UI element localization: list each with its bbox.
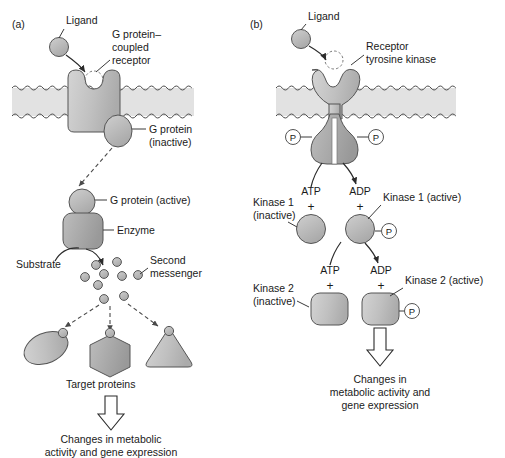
- phosphate-left-label: P: [290, 132, 296, 143]
- ligand-binding-pocket-b: [325, 51, 343, 69]
- kinase2-inactive-shape: [311, 293, 348, 325]
- outcome-block-arrow-a: [98, 396, 124, 430]
- outcome-label-b-line3: gene expression: [341, 399, 418, 411]
- rtk-dimer-split: [332, 118, 337, 164]
- kinase2-active-label: Kinase 2 (active): [405, 274, 483, 286]
- ligand-ball-b: [292, 30, 311, 49]
- g-protein-active-shape: [69, 189, 95, 215]
- ligand-leader-b: [301, 24, 306, 30]
- receptor-phosphate-right: P: [357, 130, 384, 145]
- panel-a: (a) Ligand G protein– coupled receptor G…: [12, 14, 202, 458]
- panel-b-letter: (b): [250, 18, 263, 30]
- kinase1-active-shape: [346, 215, 375, 244]
- outcome-label-b-line1: Changes in: [353, 373, 406, 385]
- gpcr-label-line3: receptor: [112, 54, 151, 66]
- enzyme-shape: [63, 213, 103, 249]
- second-messenger-dot: [120, 292, 129, 301]
- second-messenger-dot: [81, 273, 90, 282]
- enzyme-label: Enzyme: [117, 224, 155, 236]
- ligand-label-a: Ligand: [66, 14, 98, 26]
- g-protein-activation-arrow: [79, 148, 112, 186]
- second-messenger-dot: [134, 271, 143, 280]
- ligand-binding-arrow-b: [309, 46, 326, 60]
- target-arrow-left: [65, 305, 99, 327]
- second-messenger-label-line1: Second: [150, 254, 186, 266]
- target-protein-hexagon-body: [90, 335, 130, 377]
- phosphate-right-label: P: [373, 132, 379, 143]
- receptor-phosphate-left: P: [286, 130, 313, 145]
- kinase1-inactive-leader: [288, 222, 297, 227]
- second-messenger-label-line2: messenger: [150, 267, 202, 279]
- kinase2-active-shape: [362, 293, 399, 325]
- second-messenger-dot: [100, 295, 109, 304]
- plus-1-left: +: [307, 200, 314, 214]
- outcome-label-a-line2: activity and gene expression: [45, 446, 178, 458]
- g-protein-inactive-label-line1: G protein: [149, 123, 192, 135]
- adp-curve-2: [365, 243, 378, 263]
- target-protein-triangle: [146, 326, 192, 367]
- kinase1-inactive-label-line1: Kinase 1: [253, 196, 294, 208]
- plasma-membrane-b: [276, 86, 456, 118]
- target-protein-ellipse: [19, 325, 73, 371]
- kinase2-inactive-label-line1: Kinase 2: [253, 282, 294, 294]
- ligand-binding-arrow-a: [66, 55, 85, 72]
- plus-2-right: +: [377, 279, 384, 293]
- atp-curve-2: [330, 242, 341, 265]
- target-protein-triangle-ball: [164, 326, 173, 335]
- g-protein-active-label: G protein (active): [110, 194, 191, 206]
- panel-b: (b) Ligand Receptor tyrosine kinase P: [250, 10, 483, 411]
- kinase1-inactive-label-line2: (inactive): [253, 209, 296, 221]
- kinase2-inactive-label-line2: (inactive): [253, 295, 296, 307]
- plus-1-right: +: [356, 200, 363, 214]
- second-messenger-dot: [113, 258, 122, 267]
- adp-label-1: ADP: [349, 185, 371, 197]
- atp-curve-1: [311, 163, 322, 187]
- gpcr-label-line2: coupled: [112, 41, 149, 53]
- membrane-band-b: [276, 88, 456, 116]
- adp-label-2: ADP: [370, 264, 392, 276]
- ligand-leader-a: [59, 29, 64, 38]
- gpcr-label-line1: G protein–: [112, 28, 161, 40]
- rtk-label-line1: Receptor: [366, 40, 409, 52]
- signaling-pathway-figure: (a) Ligand G protein– coupled receptor G…: [0, 0, 505, 458]
- rtk-label-line2: tyrosine kinase: [366, 53, 436, 65]
- kinase1-inactive-shape: [297, 215, 326, 244]
- atp-label-2: ATP: [320, 264, 340, 276]
- target-protein-hexagon: [90, 328, 130, 377]
- target-proteins-label: Target proteins: [66, 378, 135, 390]
- panel-a-letter: (a): [12, 18, 25, 30]
- target-protein-triangle-body: [146, 332, 192, 367]
- outcome-label-b-line2: metabolic activity and: [330, 386, 431, 398]
- kinase1-active-label: Kinase 1 (active): [383, 191, 461, 203]
- target-arrow-right: [128, 304, 158, 326]
- target-protein-ellipse-ball: [58, 328, 67, 337]
- kinase1-active-leader: [368, 205, 381, 219]
- second-messenger-dots: [81, 258, 143, 304]
- plus-2-left: +: [326, 279, 333, 293]
- kinase2-active-phosphate-label: P: [409, 306, 415, 317]
- second-messenger-dot: [118, 272, 127, 281]
- outcome-block-arrow-b: [367, 328, 393, 366]
- second-messenger-dot: [100, 270, 109, 279]
- atp-label-1: ATP: [301, 185, 321, 197]
- ligand-label-b: Ligand: [308, 10, 340, 22]
- second-messenger-dot: [94, 281, 103, 290]
- adp-curve-1: [343, 163, 356, 184]
- substrate-label: Substrate: [16, 258, 61, 270]
- g-protein-inactive-shape: [104, 115, 132, 147]
- second-messenger-leader: [140, 268, 148, 274]
- target-protein-hexagon-ball: [105, 328, 114, 337]
- outcome-label-a-line1: Changes in metabolic: [61, 433, 162, 445]
- ligand-binding-pocket-a: [85, 71, 103, 89]
- rtk-label-leader: [351, 55, 364, 65]
- ligand-ball-a: [50, 38, 69, 57]
- gpcr-label-leader: [96, 60, 110, 72]
- kinase1-active-phosphate-label: P: [386, 226, 392, 237]
- kinase2-inactive-leader: [297, 301, 309, 307]
- second-messenger-dot: [92, 261, 101, 270]
- kinase2-active-leader: [390, 288, 403, 296]
- g-protein-inactive-label-line2: (inactive): [149, 136, 192, 148]
